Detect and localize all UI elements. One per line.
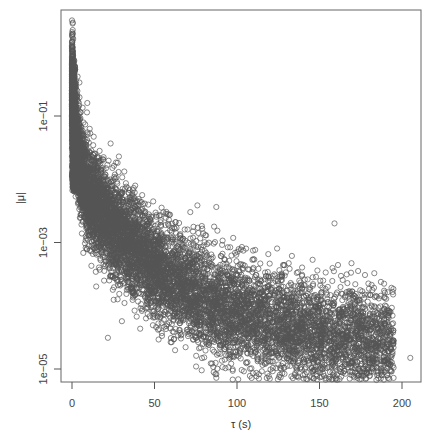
y-tick-label: 1e−01 <box>37 101 49 132</box>
x-axis: 050100150200 <box>69 382 411 409</box>
x-tick-label: 50 <box>148 397 160 409</box>
x-tick-label: 100 <box>228 397 246 409</box>
x-tick-label: 0 <box>69 397 75 409</box>
scatter-chart: 050100150200 1e−011e−031e−05 τ (s) |μ| <box>0 0 431 441</box>
y-tick-label: 1e−05 <box>37 354 49 385</box>
y-axis: 1e−011e−031e−05 <box>37 101 61 385</box>
x-tick-label: 200 <box>393 397 411 409</box>
x-axis-title: τ (s) <box>231 418 251 430</box>
x-tick-label: 150 <box>310 397 328 409</box>
y-tick-label: 1e−03 <box>37 227 49 258</box>
data-points <box>69 18 413 383</box>
y-axis-title: |μ| <box>14 192 26 204</box>
